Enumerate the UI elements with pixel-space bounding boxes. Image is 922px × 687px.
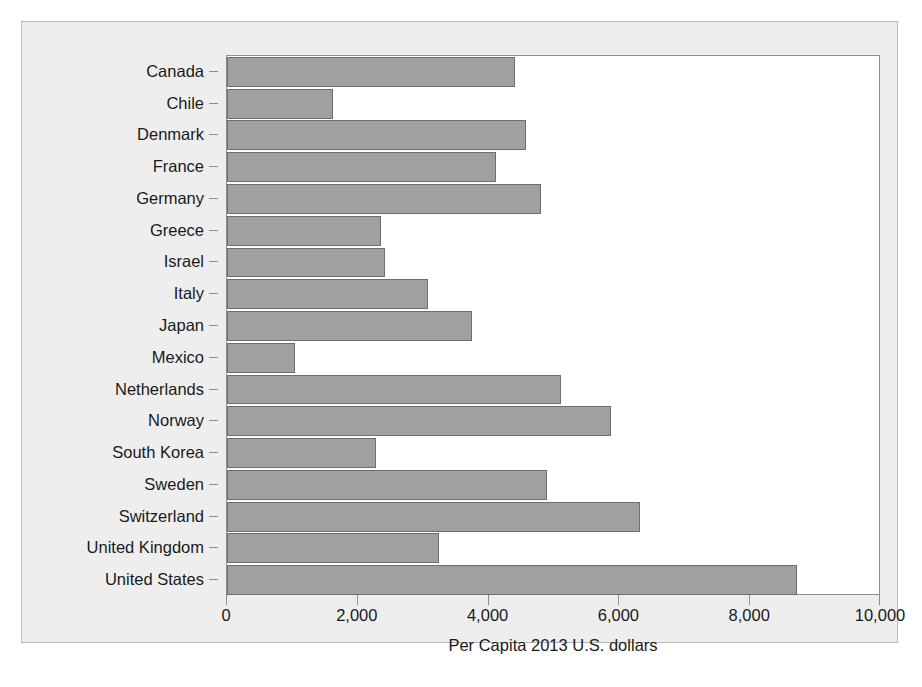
bar-sweden: [227, 470, 547, 500]
y-axis-label: Netherlands: [115, 380, 204, 397]
y-axis-tick: [209, 198, 218, 199]
y-axis-tick: [209, 389, 218, 390]
bar-japan: [227, 311, 472, 341]
y-axis-label: United Kingdom: [87, 539, 204, 556]
y-axis-tick: [209, 579, 218, 580]
y-axis-label: South Korea: [112, 444, 204, 461]
x-axis-title: Per Capita 2013 U.S. dollars: [226, 636, 880, 655]
y-axis-tick: [209, 230, 218, 231]
bar-switzerland: [227, 502, 640, 532]
chart-panel: CanadaChileDenmarkFranceGermanyGreeceIsr…: [21, 21, 898, 643]
bar-israel: [227, 248, 385, 278]
y-axis-label: Chile: [166, 94, 204, 111]
y-axis-tick: [209, 103, 218, 104]
bar-south-korea: [227, 438, 376, 468]
x-axis-tick: [357, 595, 358, 605]
y-axis-tick: [209, 293, 218, 294]
bar-germany: [227, 184, 541, 214]
x-axis-tick-label: 4,000: [467, 607, 508, 624]
figure: CanadaChileDenmarkFranceGermanyGreeceIsr…: [0, 0, 922, 687]
bar-row: [227, 152, 879, 182]
y-axis-label: Germany: [136, 190, 204, 207]
bar-row: [227, 216, 879, 246]
y-axis-label: France: [153, 158, 204, 175]
y-axis-tick: [209, 261, 218, 262]
y-axis-tick: [209, 357, 218, 358]
y-axis-label: Denmark: [137, 126, 204, 143]
x-axis-tick: [488, 595, 489, 605]
x-axis-tick-label: 10,000: [855, 607, 905, 624]
x-axis-ticks: 02,0004,0006,0008,00010,000: [226, 595, 880, 607]
y-axis-tick: [209, 516, 218, 517]
bar-row: [227, 279, 879, 309]
x-axis-tick-label: 6,000: [598, 607, 639, 624]
bar-france: [227, 152, 496, 182]
x-axis-tick-label: 2,000: [336, 607, 377, 624]
y-axis-label: Mexico: [152, 349, 204, 366]
y-axis-tick: [209, 547, 218, 548]
bar-greece: [227, 216, 381, 246]
bar-row: [227, 502, 879, 532]
y-axis-tick: [209, 71, 218, 72]
plot-area: [226, 55, 880, 595]
bar-norway: [227, 406, 611, 436]
x-axis-tick: [879, 595, 880, 605]
y-axis-tick: [209, 134, 218, 135]
x-axis-tick-label: 8,000: [729, 607, 770, 624]
y-axis-tick: [209, 452, 218, 453]
bar-row: [227, 470, 879, 500]
bar-row: [227, 57, 879, 87]
y-axis-tick: [209, 420, 218, 421]
bar-row: [227, 184, 879, 214]
y-axis-label: Sweden: [144, 476, 204, 493]
bar-united-states: [227, 565, 797, 595]
bar-denmark: [227, 120, 526, 150]
y-axis-label: Canada: [146, 63, 204, 80]
y-axis-label: Italy: [174, 285, 204, 302]
y-axis-label: Norway: [148, 412, 204, 429]
x-axis-tick: [749, 595, 750, 605]
bar-row: [227, 311, 879, 341]
bar-row: [227, 565, 879, 595]
bar-mexico: [227, 343, 295, 373]
bar-row: [227, 438, 879, 468]
bar-row: [227, 375, 879, 405]
x-axis-tick: [618, 595, 619, 605]
bar-row: [227, 343, 879, 373]
y-axis-tick: [209, 325, 218, 326]
bar-chile: [227, 89, 333, 119]
y-axis-label: Israel: [164, 253, 204, 270]
y-axis-tick: [209, 166, 218, 167]
bar-canada: [227, 57, 515, 87]
y-axis-label: Greece: [150, 221, 204, 238]
x-axis-tick: [226, 595, 227, 605]
bar-row: [227, 406, 879, 436]
y-axis-tick: [209, 484, 218, 485]
bar-row: [227, 248, 879, 278]
y-axis-label: Japan: [159, 317, 204, 334]
y-axis-labels: CanadaChileDenmarkFranceGermanyGreeceIsr…: [22, 55, 218, 595]
bar-row: [227, 89, 879, 119]
bar-row: [227, 120, 879, 150]
bar-row: [227, 533, 879, 563]
bars-layer: [227, 56, 879, 594]
y-axis-label: United States: [105, 571, 204, 588]
bar-united-kingdom: [227, 533, 439, 563]
bar-italy: [227, 279, 428, 309]
x-axis-tick-label: 0: [221, 607, 230, 624]
bar-netherlands: [227, 375, 561, 405]
y-axis-label: Switzerland: [119, 507, 204, 524]
